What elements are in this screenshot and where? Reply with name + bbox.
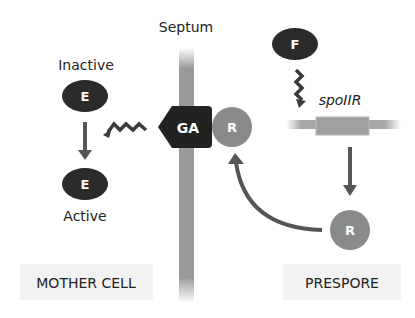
septum-membrane [179, 48, 194, 303]
inactive-label: Inactive [58, 57, 114, 73]
ga-zigzag-signal [108, 124, 146, 132]
secretion-arrowhead [228, 153, 244, 164]
activation-arrowhead [78, 150, 92, 160]
prespore-label: PRESPORE [305, 275, 379, 291]
expression-arrowhead [343, 185, 357, 196]
active-label: Active [63, 208, 106, 224]
r-prespore-label: R [345, 223, 355, 238]
e-inactive-label: E [81, 89, 90, 104]
septum-label: Septum [159, 19, 213, 35]
r-membrane-label: R [227, 120, 237, 135]
diagram-canvas: Septum Inactive E E Active GA R F spoIIR… [0, 0, 415, 318]
secretion-arrow-curve [236, 162, 322, 230]
gene-body [316, 117, 369, 135]
ga-label: GA [177, 120, 199, 136]
gene-flank-right [369, 120, 401, 129]
ga-zigzag-arrowhead [103, 128, 112, 138]
f-zigzag-arrowhead [296, 99, 306, 108]
e-active-label: E [81, 177, 90, 192]
f-zigzag-signal [296, 70, 302, 100]
f-label: F [291, 37, 300, 52]
gene-flank-left [286, 120, 316, 129]
gene-label: spoIIR [319, 92, 362, 108]
mother-cell-label: MOTHER CELL [36, 275, 136, 291]
